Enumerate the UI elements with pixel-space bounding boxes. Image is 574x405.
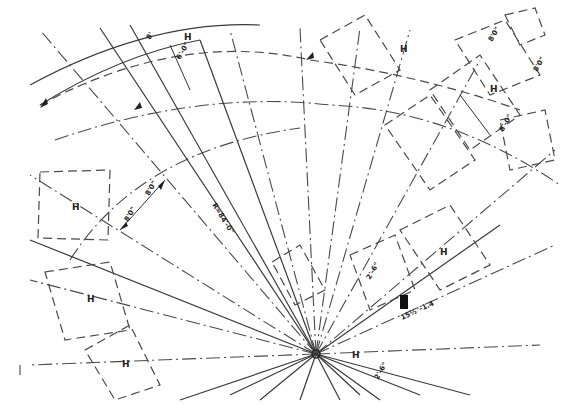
dimension-labels: R=84'-0" 6'-0" 8'0" 8'0" 8'0" 8'0" 8'-0"… [123,26,547,381]
arrow-icon [306,52,314,60]
dim-label: 8'0" [532,56,547,73]
dim-label: 2'-6" [373,361,389,381]
dim-label: 2'-6" [365,261,381,281]
h-marker: H [87,294,95,304]
dim-label: 8'-0" [498,113,514,133]
h-marker: H [400,44,408,54]
dim-label: 8' [145,31,155,41]
arrow-icon [158,180,165,190]
h-marker: H [440,247,448,257]
h-marker: H [72,202,80,212]
dim-label: 6'-0" [175,41,191,61]
h-marker: H [184,32,192,42]
technical-drawing: H H H H H H H H R=84'-0" 6'-0" 8'0" 8'0"… [0,0,574,405]
arrow-icon [134,102,142,110]
dimension-lines [20,45,490,375]
radius-label: R=84'-0" [210,202,235,236]
arrow-icon [120,222,128,230]
h-marker: H [122,359,130,369]
arrow-icon [40,98,48,108]
dashed-outlines [38,8,555,400]
h-marker: H [352,350,360,360]
h-marker: H [490,84,498,94]
dim-label: 8'0" [123,206,138,223]
solid-marker-block [400,295,408,309]
dim-label: 8'0" [487,26,502,43]
